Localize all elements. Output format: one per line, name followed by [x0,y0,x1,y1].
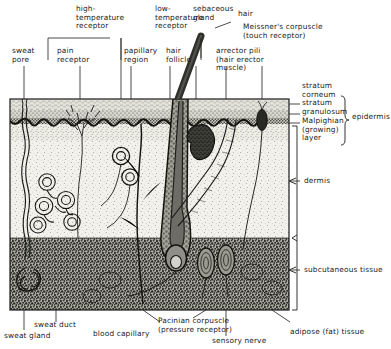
skin-block [10,99,289,310]
label-sweat-duct: sweat duct [34,321,76,330]
layer-dermis [10,124,289,238]
label-hair: hair [238,10,253,19]
skin-diagram: high- temperature receptor low- temperat… [0,0,391,349]
high-temperature-receptor [101,147,130,206]
pacinian-corpuscles [198,245,235,298]
hair-shaft-external [178,36,201,99]
label-subcutaneous-tissue: subcutaneous tissue [304,266,383,275]
sweat-apparatus [17,99,41,291]
label-dermis: dermis [304,177,330,186]
arrector-pili-muscle [172,118,236,226]
label-meissners-corpuscle: Meissner's corpuscle (touch receptor) [243,23,323,40]
hair-unit [128,36,236,296]
label-malpighian-layer: Malpighian (growing) layer [302,117,344,143]
label-stratum-granulosum: stratum granulosum [302,99,347,116]
dermo-epidermal-junction [10,119,258,126]
label-stratum-corneum: stratum corneum [302,82,336,99]
sebaceous-gland [187,125,215,160]
label-blood-capillary: blood capillary [93,330,149,339]
label-pain-receptor: pain receptor [57,47,89,64]
layer-malpighian [10,118,289,125]
label-sebaceous-gland: sebaceous gland [193,5,234,22]
adipose-tissue [83,264,282,303]
meissners-corpuscle [243,101,267,249]
label-sensory-nerve: sensory nerve [212,337,266,346]
region-papillary [10,124,289,141]
label-pacinian-corpuscle: Pacinian corpuscle (pressure receptor) [158,317,232,334]
label-hair-follicle: hair follicle [166,47,191,64]
layer-stratum-corneum [10,99,289,110]
hair-follicle [161,99,191,263]
label-adipose-tissue: adipose (fat) tissue [290,328,364,337]
pain-receptor-endings [66,105,100,238]
label-epidermis: epidermis [352,113,390,122]
layer-stratum-granulosum [10,110,289,118]
low-temperature-receptor [107,169,138,228]
hair-root [170,101,184,249]
dermal-papilla [171,256,182,269]
layer-subcutaneous [10,238,289,310]
right-column-bracket [292,126,297,310]
blood-capillary [120,124,161,304]
label-sweat-gland: sweat gland [4,332,51,341]
nerve-fibres [66,101,267,249]
label-papillary-region: papillary region [124,47,157,64]
label-arrector-pili: arrector pili (hair erector muscle) [216,47,264,73]
label-sweat-pore: sweat pore [12,47,35,64]
label-high-temperature-receptor: high- temperature receptor [76,5,124,31]
sweat-gland-coils [30,174,80,233]
